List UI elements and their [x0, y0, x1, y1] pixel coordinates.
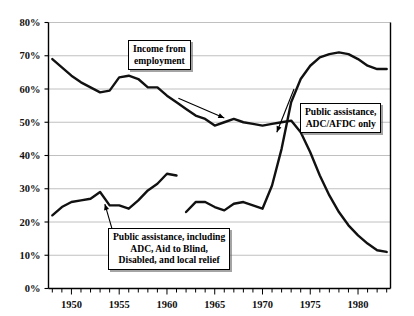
- y-axis-tick-label: 60%: [20, 84, 41, 95]
- y-axis-tick-label: 30%: [20, 183, 41, 194]
- y-axis-tick-label: 0%: [25, 283, 41, 294]
- x-axis-tick-label: 1975: [300, 299, 321, 310]
- annotation-arrows: [104, 89, 294, 240]
- annotation-line: Disabled, and local relief: [113, 254, 225, 266]
- y-axis-tick-label: 70%: [20, 50, 41, 61]
- annotation-income-from-employment: Income from employment: [128, 40, 191, 70]
- x-axis-labels: 1950195519601965197019751980: [61, 299, 369, 310]
- x-axis-tick-label: 1980: [348, 299, 369, 310]
- x-axis-tick-label: 1960: [156, 299, 177, 310]
- annotation-line: Income from: [133, 43, 186, 55]
- x-axis-ticks: [52, 289, 386, 295]
- annotation-line: Public assistance, including: [113, 231, 225, 243]
- annotation-line: employment: [133, 55, 186, 67]
- grid-lines: [49, 23, 391, 256]
- series-line-1: [52, 174, 176, 216]
- y-axis-tick-label: 10%: [20, 250, 41, 261]
- y-axis-tick-label: 80%: [20, 17, 41, 28]
- annotation-line: ADC/AFDC only: [305, 118, 376, 130]
- annotation-line: Public assistance,: [305, 106, 376, 118]
- annotation-public-assistance-adc-afdc-only: Public assistance, ADC/AFDC only: [300, 103, 381, 133]
- x-axis-tick-label: 1950: [61, 299, 82, 310]
- y-axis-labels: 0%10%20%30%40%50%60%70%80%: [20, 17, 41, 294]
- annotation-arrowhead: [277, 126, 282, 133]
- x-axis-tick-label: 1955: [109, 299, 130, 310]
- annotation-line: ADC, Aid to Blind,: [113, 243, 225, 255]
- x-axis-tick-label: 1965: [204, 299, 225, 310]
- y-axis-tick-label: 40%: [20, 150, 41, 161]
- x-axis-tick-label: 1970: [252, 299, 273, 310]
- y-axis-tick-label: 20%: [20, 217, 41, 228]
- annotation-public-assistance-including: Public assistance, including ADC, Aid to…: [108, 228, 230, 270]
- chart-container: 0%10%20%30%40%50%60%70%80% 1950195519601…: [0, 0, 414, 316]
- y-axis-tick-label: 50%: [20, 117, 41, 128]
